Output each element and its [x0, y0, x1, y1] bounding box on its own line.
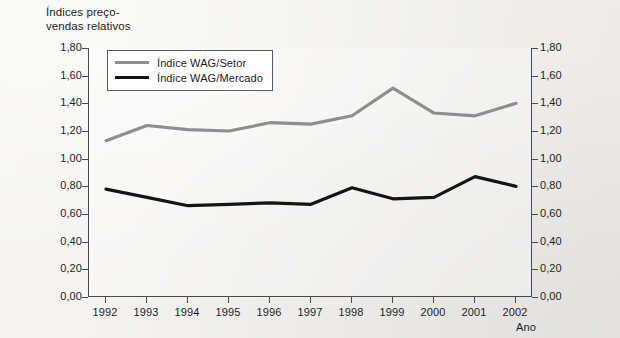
y-axis-right-tick-label: 1,80: [540, 41, 562, 53]
chart-legend: Índice WAG/Setor Índice WAG/Mercado: [107, 50, 273, 91]
line-indice-wag-mercado: [106, 177, 516, 206]
line-indice-wag-setor: [106, 88, 516, 141]
legend-swatch-mercado-icon: [115, 76, 149, 79]
chart-figure: Índices preço- vendas relativos 0,000,20…: [0, 0, 620, 338]
y-axis-right-tick-label: 0,00: [540, 290, 562, 302]
y-axis-right-tick-label: 1,40: [540, 96, 562, 108]
x-axis-tick-label: 1998: [329, 306, 373, 318]
y-axis-left-tick-label: 0,00: [60, 290, 82, 302]
x-axis-tick-mark: [392, 297, 393, 303]
y-axis-right-tick-label: 1,20: [540, 124, 562, 136]
x-axis-tick-mark: [515, 297, 516, 303]
y-axis-left-tick-label: 1,40: [60, 96, 82, 108]
x-axis-tick-label: 2002: [493, 306, 537, 318]
x-axis-tick-label: 1992: [83, 306, 127, 318]
y-axis-left-tick-label: 1,80: [60, 41, 82, 53]
y-axis-left-tick-label: 0,20: [60, 262, 82, 274]
x-axis-tick-label: 1993: [124, 306, 168, 318]
x-axis-tick-mark: [433, 297, 434, 303]
y-axis-left-tick-label: 1,60: [60, 69, 82, 81]
y-axis-right-tick-mark: [532, 297, 538, 298]
x-axis-tick-label: 1997: [288, 306, 332, 318]
y-axis-right-tick-label: 0,40: [540, 235, 562, 247]
x-axis-tick-mark: [351, 297, 352, 303]
x-axis-tick-label: 1996: [247, 306, 291, 318]
x-axis-tick-mark: [146, 297, 147, 303]
x-axis-tick-label: 2000: [411, 306, 455, 318]
y-axis-right-tick-label: 0,20: [540, 262, 562, 274]
legend-item-mercado: Índice WAG/Mercado: [115, 70, 263, 85]
y-axis-left-tick-label: 0,40: [60, 235, 82, 247]
y-axis-left-tick-label: 0,60: [60, 207, 82, 219]
legend-item-setor: Índice WAG/Setor: [115, 55, 263, 70]
y-axis-right-labels: 0,000,200,400,600,801,001,201,401,601,80: [540, 0, 584, 338]
x-axis-tick-mark: [310, 297, 311, 303]
y-axis-left-tick-label: 0,80: [60, 179, 82, 191]
y-axis-right-tick-label: 1,00: [540, 152, 562, 164]
y-axis-left-tick-mark: [82, 297, 88, 298]
y-axis-right-tick-label: 0,60: [540, 207, 562, 219]
x-axis-tick-mark: [474, 297, 475, 303]
x-axis-tick-mark: [228, 297, 229, 303]
legend-label-mercado: Índice WAG/Mercado: [157, 72, 263, 84]
x-axis-tick-label: 1995: [206, 306, 250, 318]
y-axis-left-tick-label: 1,00: [60, 152, 82, 164]
legend-swatch-setor-icon: [115, 61, 149, 64]
x-axis-label: Ano: [516, 321, 536, 333]
y-axis-right-tick-label: 1,60: [540, 69, 562, 81]
x-axis-tick-label: 1999: [370, 306, 414, 318]
x-axis-tick-mark: [105, 297, 106, 303]
x-axis-tick-label: 2001: [452, 306, 496, 318]
x-axis-tick-label: 1994: [165, 306, 209, 318]
y-axis-left-labels: 0,000,200,400,600,801,001,201,401,601,80: [44, 0, 82, 338]
legend-label-setor: Índice WAG/Setor: [157, 57, 246, 69]
x-axis-tick-mark: [269, 297, 270, 303]
y-axis-left-tick-label: 1,20: [60, 124, 82, 136]
y-axis-right-tick-label: 0,80: [540, 179, 562, 191]
x-axis-tick-mark: [187, 297, 188, 303]
